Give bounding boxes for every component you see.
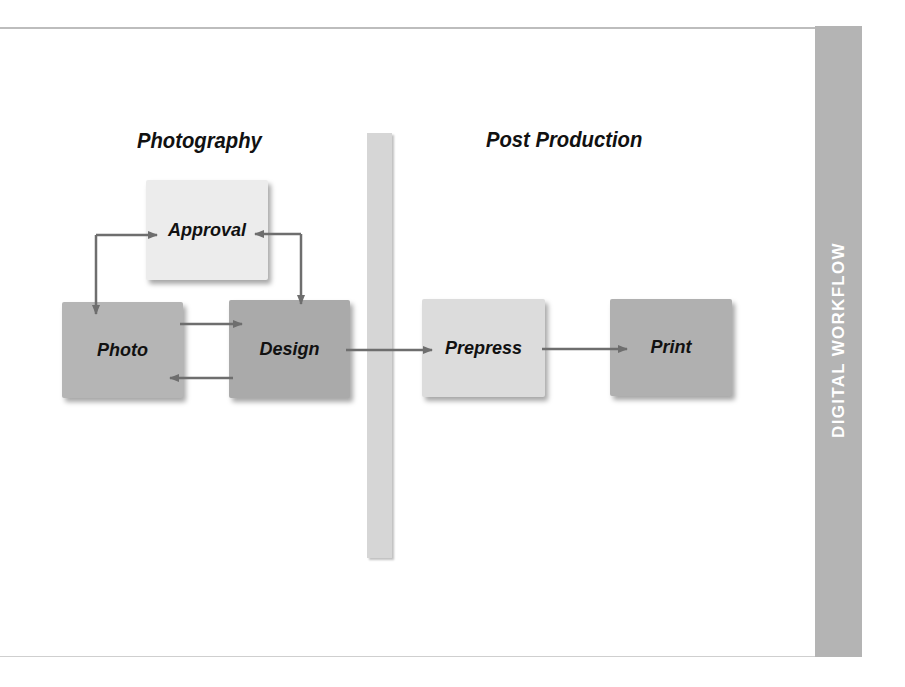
arrow-design-approval xyxy=(255,234,301,304)
arrows-layer xyxy=(0,0,905,687)
arrow-photo-approval xyxy=(96,235,157,314)
